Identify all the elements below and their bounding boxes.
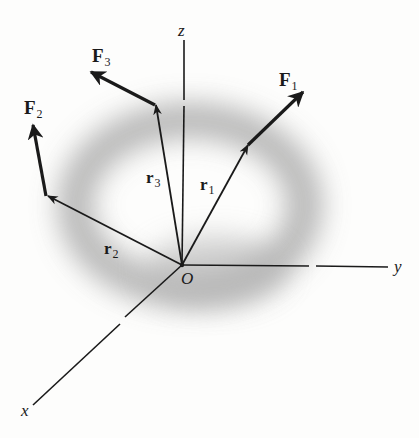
F2-label: F2 bbox=[24, 98, 43, 120]
z-axis-label: z bbox=[178, 22, 185, 39]
F3-vector bbox=[91, 72, 155, 105]
force-diagram: z y x O r1 r2 r3 F1 F2 F3 bbox=[0, 0, 419, 438]
r1-label: r1 bbox=[200, 176, 215, 196]
origin-point bbox=[180, 263, 184, 267]
y-axis-outer bbox=[316, 266, 388, 267]
x-axis-label: x bbox=[21, 402, 29, 419]
r2-label: r2 bbox=[104, 240, 119, 260]
y-axis-label: y bbox=[394, 258, 402, 275]
y-axis-inner bbox=[182, 265, 309, 266]
origin-label: O bbox=[181, 270, 193, 287]
r3-label: r3 bbox=[146, 169, 161, 189]
diagram-graphics bbox=[0, 0, 419, 438]
F3-label: F3 bbox=[92, 46, 111, 68]
x-axis-outer bbox=[33, 324, 120, 405]
F2-vector bbox=[33, 125, 46, 196]
F1-label: F1 bbox=[279, 70, 298, 92]
